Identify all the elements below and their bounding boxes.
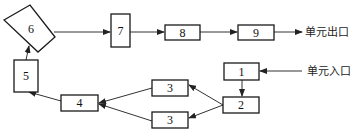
- node-3-top: 3: [152, 80, 188, 96]
- svg-text:7: 7: [118, 24, 124, 38]
- edge-3b-4: [99, 104, 152, 121]
- svg-text:5: 5: [23, 69, 29, 83]
- edge-2-3b: [189, 105, 223, 118]
- edge-2-3a: [189, 85, 223, 105]
- svg-text:3: 3: [167, 81, 173, 95]
- node-6: 6: [4, 5, 55, 52]
- svg-text:8: 8: [180, 26, 186, 40]
- entrance-label: 单元入口: [307, 65, 351, 78]
- svg-text:4: 4: [77, 96, 83, 110]
- node-9: 9: [238, 25, 274, 40]
- node-5: 5: [14, 60, 38, 92]
- svg-text:2: 2: [238, 98, 244, 112]
- exit-label: 单元出口: [305, 25, 349, 39]
- svg-text:9: 9: [253, 26, 259, 40]
- node-1: 1: [224, 63, 259, 80]
- edge-4-5: [29, 92, 61, 101]
- node-7: 7: [111, 14, 130, 47]
- node-8: 8: [165, 25, 200, 40]
- edge-3a-4: [99, 88, 152, 103]
- node-3-bottom: 3: [152, 112, 188, 128]
- svg-text:3: 3: [167, 113, 173, 127]
- node-4: 4: [61, 95, 98, 111]
- svg-text:1: 1: [239, 65, 245, 79]
- flow-diagram: 6 7 8 9 1 2 3 3 4 5 单元出口 单元入口: [0, 0, 354, 138]
- edge-5-6: [26, 46, 29, 60]
- svg-text:6: 6: [28, 22, 34, 36]
- node-2: 2: [223, 97, 259, 113]
